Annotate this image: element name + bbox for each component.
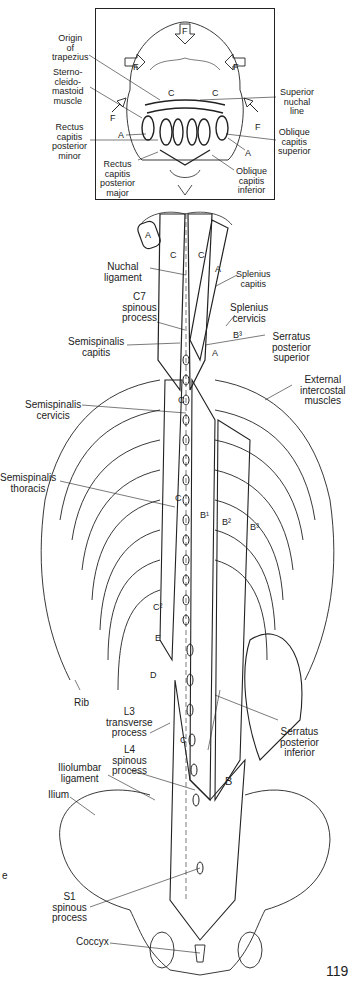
label-rectus-capitis-posterior-minor: Rectus capitis posterior minor [52,123,87,161]
erector-spinae-drawing [160,380,302,940]
letter-f-lower-right: F [255,122,261,132]
letter-f-right: F [233,62,239,72]
label-superior-nuchal-line: Superior nuchal line [280,88,314,117]
anatomy-figure: Origin of trapezius Sterno- cleido- mast… [0,0,361,994]
label-semispinalis-capitis: Semispinalis capitis [68,337,124,358]
letter-b1: B¹ [200,510,209,520]
label-nuchal-ligament: Nuchal ligament [104,262,142,283]
letter-c-right: C [198,250,205,260]
letter-b2: B² [222,517,231,527]
letter-a-splenius: A [215,264,221,274]
label-ilium: Ilium [48,790,69,801]
label-l4-spinous-process: L4 spinous process [112,745,147,777]
label-oblique-capitis-inferior: Oblique capitis inferior [236,167,267,196]
letter-e: E [155,633,161,643]
letter-c-left: C [170,250,177,260]
letter-c-thoracic: C [175,493,182,503]
letter-f-top: F [182,26,188,36]
label-coccyx: Coccyx [76,937,109,948]
letter-c2: C² [153,602,163,612]
letter-a-left: A [118,130,124,140]
letter-a-small: A [212,348,218,358]
label-splenius-cervicis: Splenius cervicis [230,303,268,324]
letter-c-left: C [168,88,175,98]
page-number: 119 [326,963,348,979]
letter-d: D [150,670,157,680]
label-semispinalis-cervicis: Semispinalis cervicis [25,400,81,421]
label-iliolumbar-ligament: Iliolumbar ligament [58,763,101,784]
letter-f-left: F [133,62,139,72]
letter-c-mid: C [178,395,185,405]
label-serratus-posterior-superior: Serratus posterior superior [272,332,311,364]
letter-c-right: C [212,88,219,98]
label-c7-spinous-process: C7 spinous process [122,292,157,324]
label-rectus-capitis-posterior-major: Rectus capitis posterior major [100,160,135,198]
label-oblique-capitis-superior: Oblique capitis superior [278,128,311,157]
label-rib: Rib [74,698,89,709]
label-sternocleidomastoid: Sterno- cleido- mastoid muscle [52,68,84,106]
margin-fragment-text: e [2,871,8,882]
label-s1-spinous-process: S1 spinous process [52,892,87,924]
leader-lines [60,268,292,953]
letter-b3-upper: B³ [233,330,242,340]
label-l3-transverse-process: L3 transverse process [106,707,153,739]
letter-a-right: A [245,148,251,158]
label-serratus-posterior-inferior: Serratus posterior inferior [280,727,319,759]
letter-f-lower-left: F [110,113,116,123]
letter-c-lumbar: C [180,735,187,745]
letter-b-lumbar: B [225,775,232,787]
letter-a-upper: A [145,230,151,240]
label-splenius-capitis: Splenius capitis [236,270,271,289]
label-semispinalis-thoracis: Semispinalis thoracis [0,473,56,494]
letter-b3: B³ [250,522,259,532]
label-external-intercostal-muscles: External intercostal muscles [300,375,346,407]
label-origin-of-trapezius: Origin of trapezius [52,34,89,63]
